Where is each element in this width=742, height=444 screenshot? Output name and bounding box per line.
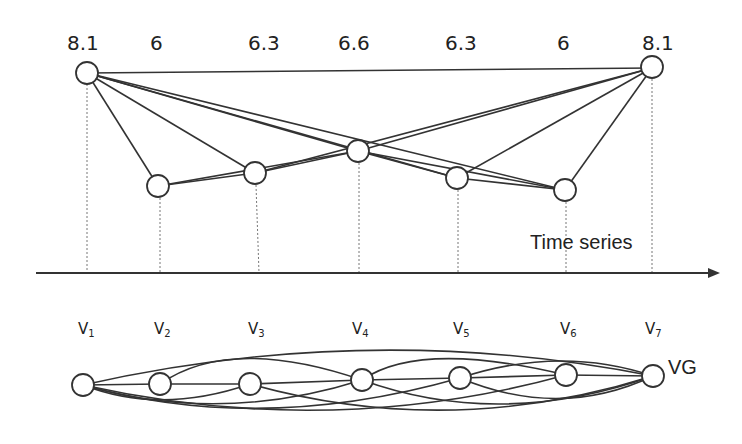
value-label-v7: 8.1	[642, 31, 674, 55]
node-label-v1: V1	[78, 320, 95, 339]
ts-node-v7	[641, 56, 663, 78]
vg-node-v1	[72, 374, 94, 396]
vg-node-v2	[149, 373, 171, 395]
arrow-icon	[708, 268, 720, 278]
value-label-v5: 6.3	[445, 31, 477, 55]
vg-node-v5	[449, 367, 471, 389]
ts-node-v2	[147, 175, 169, 197]
time-axis	[36, 268, 720, 278]
node-label-v6: V6	[560, 320, 577, 339]
ts-node-v1	[76, 62, 98, 84]
node-label-v5: V5	[453, 320, 470, 339]
vg-node-v3	[239, 373, 261, 395]
visibility-graph-diagram: 8.1 6 6.3 6.6 6.3 6 8.1	[0, 0, 742, 444]
value-labels: 8.1 6 6.3 6.6 6.3 6 8.1	[67, 31, 674, 55]
time-series-edges	[87, 68, 652, 190]
time-series-nodes	[76, 56, 663, 201]
vg-label: VG	[668, 356, 697, 378]
ts-node-v5	[446, 167, 468, 189]
value-label-v2: 6	[150, 31, 163, 55]
ts-node-v4	[347, 140, 369, 162]
node-label-v3: V3	[248, 320, 265, 339]
vg-node-v4	[351, 369, 373, 391]
time-series-label: Time series	[530, 231, 633, 253]
value-label-v4: 6.6	[338, 31, 370, 55]
node-labels: V1 V2 V3 V4 V5 V6 V7	[78, 320, 662, 339]
value-label-v6: 6	[557, 31, 570, 55]
node-label-v4: V4	[352, 320, 369, 339]
value-label-v3: 6.3	[248, 31, 280, 55]
node-label-v2: V2	[154, 320, 171, 339]
vg-node-v6	[555, 364, 577, 386]
ts-node-v3	[244, 162, 266, 184]
value-label-v1: 8.1	[67, 31, 99, 55]
vg-node-v7	[642, 365, 664, 387]
node-label-v7: V7	[645, 320, 662, 339]
ts-node-v6	[554, 179, 576, 201]
